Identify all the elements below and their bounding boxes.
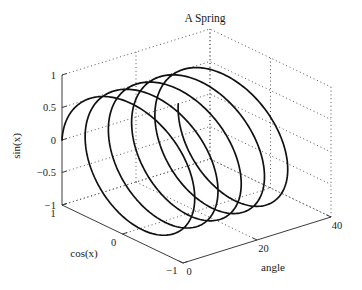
x-axis-label: cos(x) <box>70 247 98 260</box>
z-tick-label: 1 <box>51 70 56 81</box>
y-tick-label: 40 <box>332 220 343 231</box>
spring-curve <box>62 68 288 236</box>
x-tick-label: −1 <box>166 265 177 276</box>
plot-title: A Spring <box>184 12 225 25</box>
z-tick-label: 0 <box>51 135 56 146</box>
axis-lines <box>62 75 331 263</box>
y-tick-label: 20 <box>258 243 269 254</box>
y-axis-label: angle <box>261 261 285 273</box>
z-axis-label: sin(x) <box>10 133 23 159</box>
x-tick-label: 1 <box>50 208 55 219</box>
plot-canvas: A Spring sin(x) cos(x) angle 1 0.5 0 −0.… <box>0 0 362 290</box>
x-tick-label: 0 <box>111 237 116 248</box>
grid-lines <box>62 29 331 240</box>
z-tick-label: −0.5 <box>37 167 56 178</box>
y-tick-label: 0 <box>186 266 191 277</box>
z-tick-label: 0.5 <box>43 102 56 113</box>
spring-3d-plot-figure: A Spring sin(x) cos(x) angle 1 0.5 0 −0.… <box>0 0 362 290</box>
